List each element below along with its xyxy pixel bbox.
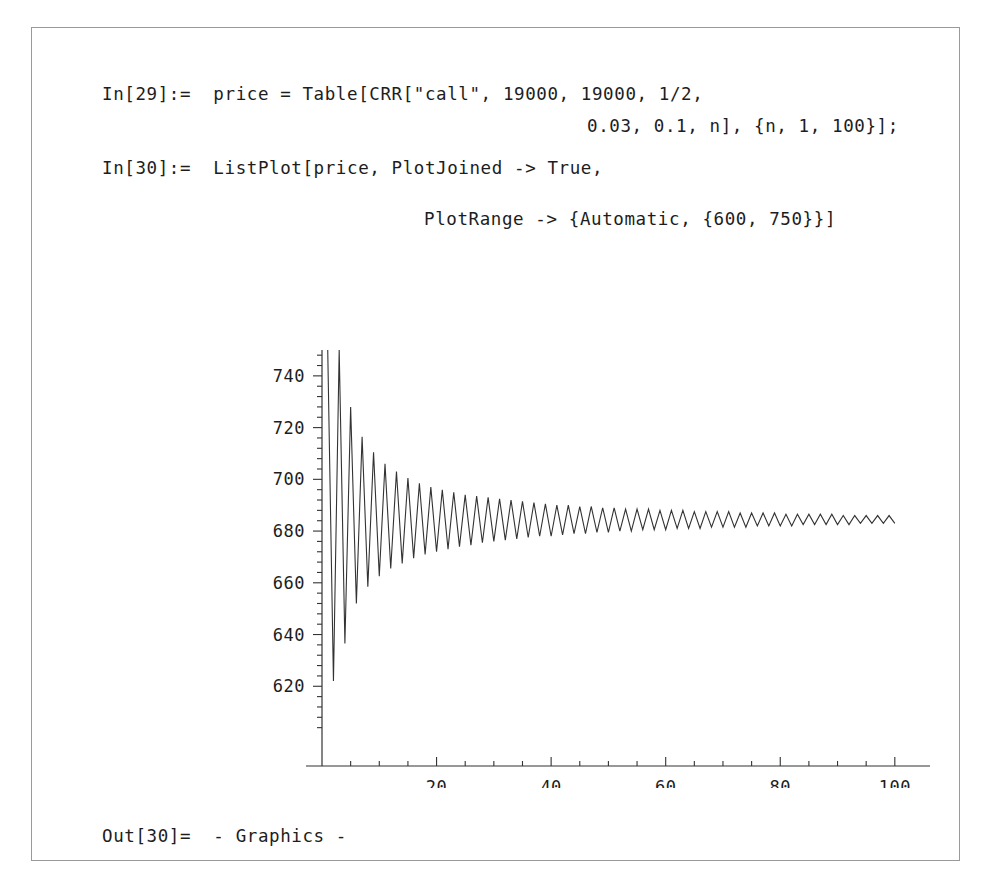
y-tick-label: 720	[273, 418, 305, 438]
plot-axes	[306, 350, 930, 766]
input-cell-29-line-2[interactable]: 0.03, 0.1, n], {n, 1, 100}];	[587, 118, 899, 136]
y-tick-label: 620	[273, 676, 305, 696]
y-tick-label: 700	[273, 469, 305, 489]
listplot-graphics: 20406080100620640660680700720740	[232, 328, 952, 788]
x-tick-label: 80	[770, 777, 791, 788]
input-cell-30-line-2[interactable]: PlotRange -> {Automatic, {600, 750}}]	[424, 211, 836, 229]
x-tick-label: 100	[879, 777, 911, 788]
notebook-page: In[29]:= price = Table[CRR["call", 19000…	[0, 0, 989, 893]
y-tick-label: 680	[273, 521, 305, 541]
output-cell-30: Out[30]= - Graphics -	[102, 828, 347, 846]
x-tick-label: 40	[540, 777, 561, 788]
x-tick-label: 60	[655, 777, 676, 788]
input-cell-30-line-1[interactable]: In[30]:= ListPlot[price, PlotJoined -> T…	[102, 160, 603, 178]
y-tick-label: 660	[273, 573, 305, 593]
y-tick-label: 640	[273, 625, 305, 645]
notebook-cell-frame: In[29]:= price = Table[CRR["call", 19000…	[31, 27, 960, 861]
plot-svg: 20406080100620640660680700720740	[232, 328, 952, 788]
input-cell-29-line-1[interactable]: In[29]:= price = Table[CRR["call", 19000…	[102, 86, 703, 104]
x-tick-label: 20	[426, 777, 447, 788]
price-series-line	[328, 350, 895, 681]
y-tick-label: 740	[273, 366, 305, 386]
